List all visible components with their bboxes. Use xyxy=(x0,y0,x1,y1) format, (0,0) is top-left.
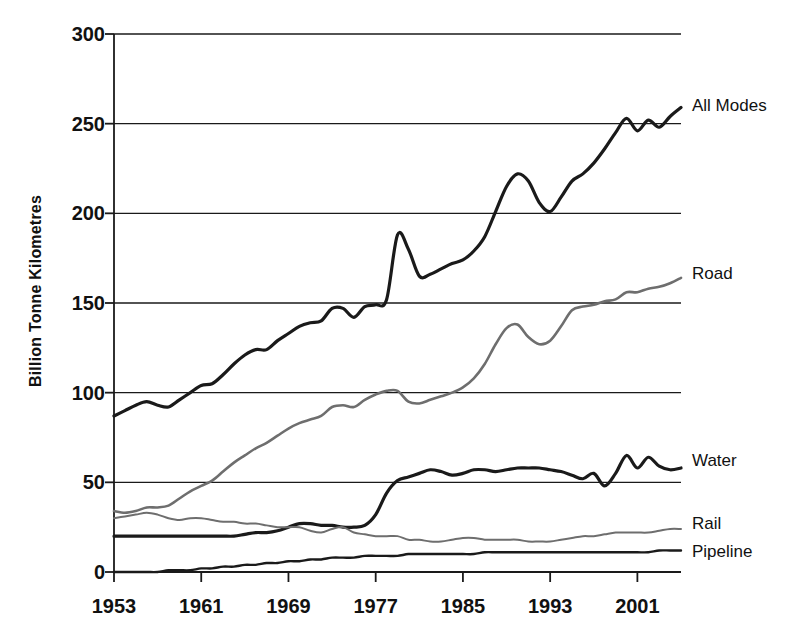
line-chart: Billion Tonne Kilometres 050100150200250… xyxy=(0,0,800,642)
y-axis-tick-label: 100 xyxy=(47,383,105,403)
x-axis-tick-label: 1969 xyxy=(253,596,323,616)
x-axis-tick-label: 1977 xyxy=(341,596,411,616)
series-line-all-modes xyxy=(114,108,681,416)
y-axis-tick-label: 300 xyxy=(47,24,105,44)
y-axis-tick-label: 150 xyxy=(47,293,105,313)
y-axis-tick-label: 250 xyxy=(47,114,105,134)
series-line-water xyxy=(114,455,681,536)
series-label-rail: Rail xyxy=(692,515,721,532)
plot-canvas xyxy=(0,0,800,642)
y-axis-tick-label: 0 xyxy=(47,562,105,582)
x-axis-tick-label: 1985 xyxy=(428,596,498,616)
x-axis-tick-label: 1953 xyxy=(79,596,149,616)
series-label-pipeline: Pipeline xyxy=(692,543,753,560)
series-line-pipeline xyxy=(114,550,681,572)
series-group xyxy=(114,108,681,573)
y-axis-tick-label: 50 xyxy=(47,472,105,492)
series-label-all-modes: All Modes xyxy=(692,97,767,114)
series-label-road: Road xyxy=(692,265,733,282)
tickmarks-group xyxy=(105,34,637,582)
y-axis-tick-label: 200 xyxy=(47,203,105,223)
series-label-water: Water xyxy=(692,452,737,469)
x-axis-tick-label: 1993 xyxy=(515,596,585,616)
x-axis-tick-label: 1961 xyxy=(166,596,236,616)
x-axis-tick-label: 2001 xyxy=(602,596,672,616)
